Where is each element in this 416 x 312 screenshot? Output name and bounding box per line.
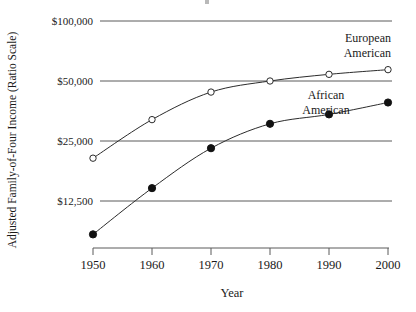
annotation-african-line1: African: [308, 88, 345, 102]
x-axis-title: Year: [220, 286, 244, 300]
annotation-african-american: African American: [302, 88, 349, 117]
data-point-european-american-1960[interactable]: [149, 116, 155, 122]
data-point-european-american-1950[interactable]: [90, 155, 96, 161]
income-line-chart: $100,000 $50,000 $25,000 $12,500 Adjuste…: [0, 0, 416, 312]
data-point-european-american-1970[interactable]: [208, 89, 214, 95]
data-point-african-american-1980[interactable]: [266, 120, 273, 127]
x-tick-label-1960: 1960: [140, 258, 165, 272]
annotation-european-line1: European: [345, 31, 391, 45]
x-tick-label-1990: 1990: [317, 258, 342, 272]
data-point-african-american-1970[interactable]: [207, 145, 214, 152]
y-tick-label-100000: $100,000: [52, 15, 94, 27]
data-point-african-american-1950[interactable]: [89, 231, 96, 238]
series-line-african-american: [93, 103, 388, 235]
x-tick-label-1980: 1980: [258, 258, 283, 272]
x-axis-ticks: 1950 1960 1970 1980 1990 2000: [81, 258, 401, 272]
y-axis-ticks: $100,000 $50,000 $25,000 $12,500: [52, 15, 94, 207]
annotation-african-line2: American: [302, 103, 349, 117]
y-tick-label-12500: $12,500: [57, 195, 93, 207]
annotation-european-american: European American: [344, 31, 391, 60]
x-tick-label-1950: 1950: [81, 258, 106, 272]
chart-container: $100,000 $50,000 $25,000 $12,500 Adjuste…: [0, 0, 416, 312]
data-point-european-american-1980[interactable]: [267, 78, 273, 84]
annotation-european-line2: American: [344, 46, 391, 60]
y-tick-label-25000: $25,000: [57, 135, 93, 147]
x-tick-label-1970: 1970: [199, 258, 224, 272]
x-tick-label-2000: 2000: [376, 258, 401, 272]
data-point-african-american-2000[interactable]: [384, 99, 391, 106]
y-axis-title: Adjusted Family-of-Four Income (Ratio Sc…: [6, 32, 19, 249]
series-layer: [89, 66, 391, 238]
data-point-african-american-1960[interactable]: [148, 185, 155, 192]
y-tick-label-50000: $50,000: [57, 75, 93, 87]
data-point-european-american-2000[interactable]: [385, 66, 391, 72]
scan-artifact: [205, 0, 209, 4]
data-point-european-american-1990[interactable]: [326, 71, 332, 77]
x-axis: [93, 248, 389, 255]
